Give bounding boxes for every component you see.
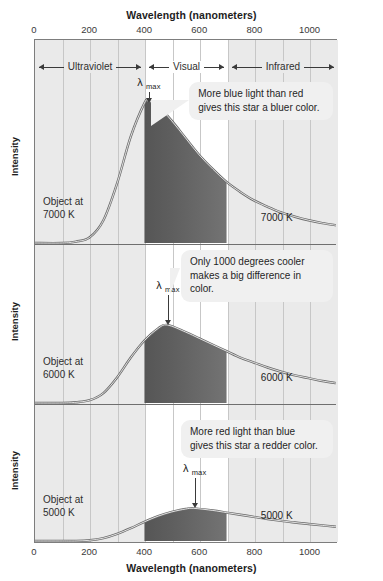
callout-1: More blue light than red gives this star… <box>189 82 333 120</box>
panel-2: Object at 6000 K6000 Kλ maxOnly 1000 deg… <box>35 244 336 404</box>
callout-tail-2 <box>170 268 180 294</box>
lambda-max-pointer-3 <box>195 478 196 503</box>
x-tick-bottom-400: 400 <box>136 546 152 557</box>
x-tick-top-200: 200 <box>81 24 97 35</box>
band-infrared: Infrared <box>228 40 338 74</box>
bottom-tick-labels: 02004006008001000 <box>34 546 337 559</box>
x-tick-bottom-200: 200 <box>81 546 97 557</box>
curve-label-3: 5000 K <box>261 510 293 521</box>
object-temperature-label-3: Object at 5000 K <box>43 494 83 519</box>
top-tick-labels: 02004006008001000 <box>34 24 337 37</box>
curve-label-1: 7000 K <box>261 212 293 223</box>
blackbody-radiation-figure: Wavelength (nanometers) 0200400600800100… <box>0 0 383 581</box>
top-axis-title: Wavelength (nanometers) <box>0 9 383 21</box>
band-visual: Visual <box>145 40 228 74</box>
x-tick-top-0: 0 <box>31 24 36 35</box>
panel-1: Object at 7000 K7000 Kλ maxMore blue lig… <box>35 74 336 244</box>
object-temperature-label-2: Object at 6000 K <box>43 356 83 381</box>
lambda-max-label-3: λ max <box>183 462 206 477</box>
band-label-infrared: Infrared <box>262 61 304 73</box>
y-axis-label-panel-2: Intensity <box>9 292 20 352</box>
spectrum-band-strip: UltravioletVisualInfrared <box>35 40 336 74</box>
callout-tail-1 <box>151 100 189 126</box>
y-axis-label-panel-1: Intensity <box>9 127 20 187</box>
bottom-axis-title: Wavelength (nanometers) <box>0 562 383 574</box>
band-ultraviolet: Ultraviolet <box>35 40 145 74</box>
x-tick-top-1000: 1000 <box>299 24 320 35</box>
band-label-ultraviolet: Ultraviolet <box>64 61 116 73</box>
x-tick-top-600: 600 <box>191 24 207 35</box>
lambda-max-label-1: λ max <box>137 76 160 91</box>
callout-3: More red light than blue gives this star… <box>181 420 333 458</box>
x-tick-bottom-0: 0 <box>31 546 36 557</box>
lambda-symbol-2: λ <box>156 279 162 291</box>
callout-2: Only 1000 degrees cooler makes a big dif… <box>181 250 333 302</box>
object-temperature-label-1: Object at 7000 K <box>43 196 83 221</box>
x-tick-top-800: 800 <box>246 24 262 35</box>
x-tick-top-400: 400 <box>136 24 152 35</box>
y-axis-label-panel-3: Intensity <box>9 441 20 501</box>
plot-area: UltravioletVisualInfraredObject at 7000 … <box>34 39 337 543</box>
lambda-symbol-3: λ <box>183 462 189 474</box>
x-tick-bottom-800: 800 <box>246 546 262 557</box>
x-tick-bottom-1000: 1000 <box>299 546 320 557</box>
lambda-max-pointer-1 <box>149 92 150 98</box>
lambda-max-pointer-2 <box>168 295 169 320</box>
band-label-visual: Visual <box>169 61 204 73</box>
panel-3: Object at 5000 K5000 Kλ maxMore red ligh… <box>35 404 336 542</box>
lambda-symbol-1: λ <box>137 76 143 88</box>
x-tick-bottom-600: 600 <box>191 546 207 557</box>
curve-label-2: 6000 K <box>261 372 293 383</box>
lambda-max-subscript-3: max <box>192 469 207 478</box>
lambda-max-subscript-1: max <box>146 82 161 91</box>
